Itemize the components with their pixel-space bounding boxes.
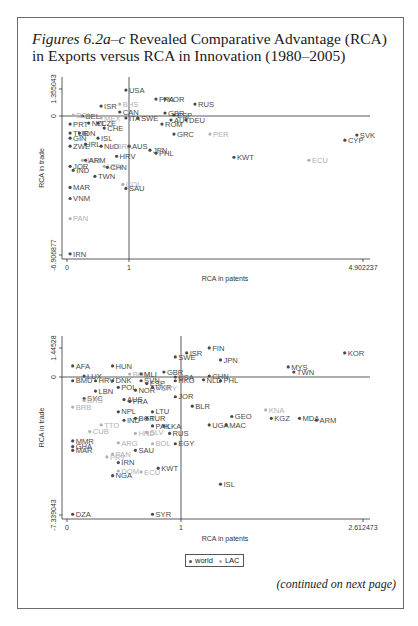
legend-item-lac: LAC [219,555,240,566]
point-label: DEU [189,116,205,125]
data-point [88,430,91,433]
data-point [128,372,131,375]
point-label: CUB [93,427,109,436]
data-point [69,217,72,220]
data-point [122,398,125,401]
data-point [117,461,120,464]
data-point [193,102,196,105]
point-label: JPN [224,356,238,365]
data-point [69,186,72,189]
point-label: IRN [73,250,86,259]
point-label: AFA [76,362,91,371]
data-point [162,424,165,427]
data-point [72,113,75,116]
data-point [124,88,127,91]
point-label: RUS [198,100,214,109]
data-point [94,390,97,393]
x-tick-label: 1 [179,524,183,531]
data-point [100,423,103,426]
data-point [69,122,72,125]
point-label: GRC [177,130,194,139]
y-axis-title: RCA in trade [38,148,45,188]
data-point [111,364,114,367]
point-label: EGY [178,439,194,448]
point-label: IND [76,166,90,175]
data-point [184,118,187,121]
point-label: SWE [141,114,158,123]
data-point [160,122,163,125]
x-axis-title: RCA in patents [202,535,249,543]
y-tick-label: -7.339043 [50,499,57,531]
point-label: KGZ [274,414,290,423]
point-label: MAC [229,421,246,430]
data-point [134,389,137,392]
data-point [87,121,90,124]
point-label: BOL [76,111,91,120]
data-point [219,483,222,486]
data-point [71,513,74,516]
data-point [72,169,75,172]
point-label: ISL [224,480,235,489]
point-label: ARM [319,416,336,425]
point-label: HRV [120,152,137,161]
point-label: KOR [168,95,185,104]
data-point [136,116,139,119]
data-point [264,408,267,411]
data-point [105,455,108,458]
data-point [174,442,177,445]
point-label: BLR [195,402,210,411]
data-point [230,415,233,418]
data-point [112,145,115,148]
point-label: KWT [161,464,178,473]
y-tick-label: -6.906877 [50,239,57,271]
point-label: HUN [116,362,132,371]
data-point [140,379,143,382]
point-label: AUS [132,142,148,151]
data-point [191,405,194,408]
data-point [298,417,301,420]
point-label: RUS [173,429,189,438]
data-point [219,379,222,382]
data-point [168,432,171,435]
y-axis-title: RCA in trade [38,408,45,448]
data-point [270,417,273,420]
data-point [154,97,157,100]
data-point [69,132,72,135]
point-label: KWT [237,153,254,162]
data-point [127,145,130,148]
point-label: ECU [312,156,328,165]
data-point [162,370,165,373]
data-point [151,424,154,427]
point-label: ROM [165,120,183,129]
point-label: TWN [297,368,314,377]
data-point [174,355,177,358]
legend-dot-world [189,560,192,563]
point-label: CHN [110,163,126,172]
legend-item-world: world [189,555,213,566]
data-point [140,470,143,473]
data-point [208,133,211,136]
x-tick-label: 4.902237 [348,264,377,271]
data-point [83,399,86,402]
point-label: BMU [76,376,93,385]
data-point [151,442,154,445]
data-point [151,513,154,516]
point-label: DZA [76,510,92,519]
data-point [69,137,72,140]
point-label: ZWE [73,142,90,151]
point-label: SAU [129,184,145,193]
point-label: HKG [178,376,195,385]
data-point [174,379,177,382]
point-label: MAR [73,183,90,192]
point-label: PER [213,130,229,139]
point-label: SAU [138,446,154,455]
point-label: KOR [348,349,365,358]
data-point [124,187,127,190]
data-point [100,104,103,107]
data-point [124,116,127,119]
data-point [128,400,131,403]
data-point [219,358,222,361]
point-label: IRL [89,140,101,149]
point-label: BRB [76,403,92,412]
point-label: HND [138,429,155,438]
